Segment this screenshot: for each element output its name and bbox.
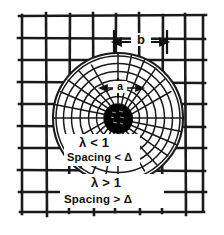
inner-spacing-label: Spacing < Δ <box>67 152 132 163</box>
outer-lambda-label: λ > 1 <box>91 176 121 189</box>
core-blob-irregular-edge <box>105 105 132 133</box>
figure-container: b a λ < 1 Spacing < Δ λ > 1 Spacing > Δ <box>0 0 224 235</box>
grid-line-horizontal <box>19 15 206 16</box>
grid-line-vertical <box>46 13 47 216</box>
core-blob-group <box>105 105 132 133</box>
outer-spacing-label: Spacing > Δ <box>64 194 132 206</box>
dimension-a-label: a <box>117 81 123 92</box>
grid-line-vertical <box>185 14 186 215</box>
grid-line-horizontal <box>18 38 205 39</box>
dimension-b-label: b <box>137 33 145 46</box>
inner-lambda-label: λ < 1 <box>79 136 109 149</box>
